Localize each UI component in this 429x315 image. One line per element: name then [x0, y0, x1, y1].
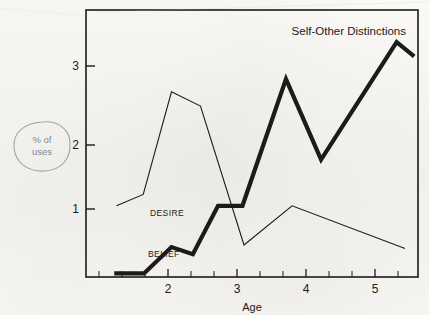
chart-title: Self-Other Distinctions [292, 25, 407, 37]
y-tick-label-2: 2 [72, 138, 79, 152]
chart-canvas: 3 2 1 2 3 4 5 Age [0, 0, 429, 315]
x-tick-label-5: 5 [372, 282, 379, 296]
series-line-desire [117, 92, 406, 249]
y-tick-label-3: 3 [72, 59, 79, 73]
series-line-belief [114, 42, 414, 273]
x-axis: 2 3 4 5 Age [99, 269, 398, 313]
plot-border [86, 10, 418, 277]
plot-frame [86, 10, 418, 277]
series-label-belief: BELIEF [148, 249, 180, 259]
x-tick-label-3: 3 [234, 282, 241, 296]
annotation-line-1: % of [32, 134, 51, 145]
x-tick-label-2: 2 [165, 282, 172, 296]
y-tick-label-1: 1 [72, 202, 79, 216]
chart-figure: 3 2 1 2 3 4 5 Age [0, 0, 429, 315]
series-group [114, 42, 414, 273]
x-axis-label: Age [242, 301, 262, 313]
x-tick-label-4: 4 [303, 282, 310, 296]
series-label-desire: DESIRE [150, 208, 184, 218]
y-axis: 3 2 1 [72, 59, 95, 216]
annotation-line-2: uses [32, 146, 52, 157]
percent-of-uses-annotation: % of uses [14, 122, 70, 171]
scan-artifacts [0, 2, 429, 16]
